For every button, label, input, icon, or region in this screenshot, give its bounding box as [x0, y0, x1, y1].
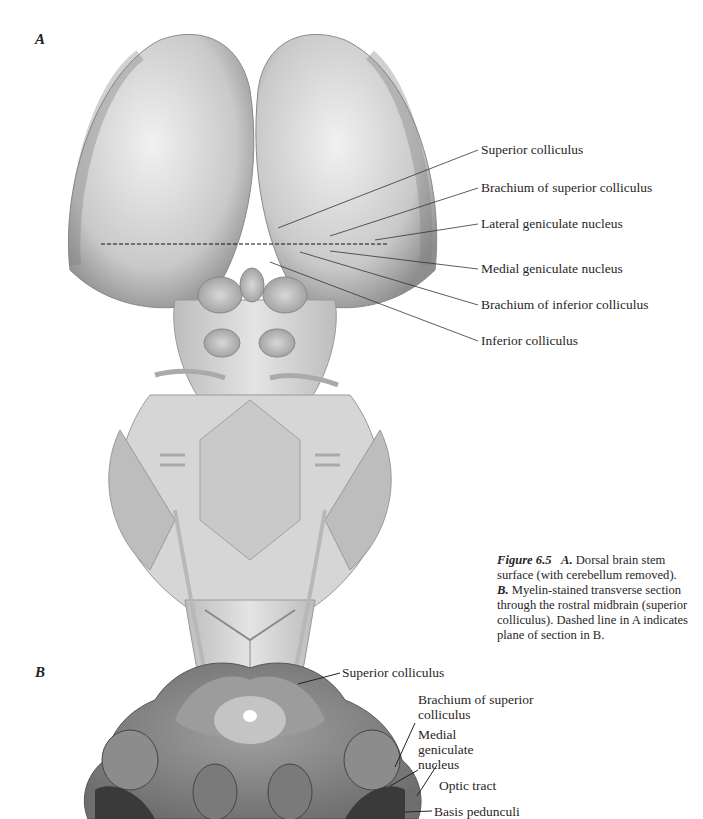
caption-b-label: B.: [497, 583, 509, 597]
label-a-superior-colliculus: Superior colliculus: [481, 142, 583, 157]
left-superior-colliculus: [198, 277, 242, 313]
pineal: [240, 268, 264, 302]
left-inferior-colliculus: [204, 329, 240, 357]
caption-a-label: A.: [561, 553, 573, 567]
brainstem-illustration: [0, 0, 703, 819]
right-superior-colliculus: [263, 277, 307, 313]
label-a-inferior-colliculus: Inferior colliculus: [481, 333, 578, 348]
label-b-basis-pedunculi: Basis pedunculi: [434, 804, 520, 819]
left-thalamus: [68, 34, 253, 307]
label-b-optic-tract: Optic tract: [439, 778, 496, 793]
caption-figure-label: Figure 6.5: [497, 553, 552, 567]
figure-caption: Figure 6.5 A. Dorsal brain stem surface …: [497, 553, 697, 643]
label-a-lateral-geniculate-nucleus: Lateral geniculate nucleus: [481, 216, 623, 231]
right-inferior-colliculus: [259, 329, 295, 357]
label-a-brachium-inferior-colliculus: Brachium of inferior colliculus: [481, 297, 649, 312]
label-b-medial-geniculate-nucleus: Medial geniculate nucleus: [418, 727, 513, 772]
label-b-brachium-superior-colliculus: Brachium of superior colliculus: [418, 692, 538, 722]
label-b-superior-colliculus: Superior colliculus: [342, 665, 444, 680]
caption-b-text: Myelin-stained transverse section throug…: [497, 583, 688, 642]
label-a-medial-geniculate-nucleus: Medial geniculate nucleus: [481, 261, 623, 276]
label-a-brachium-superior-colliculus: Brachium of superior colliculus: [481, 180, 652, 195]
